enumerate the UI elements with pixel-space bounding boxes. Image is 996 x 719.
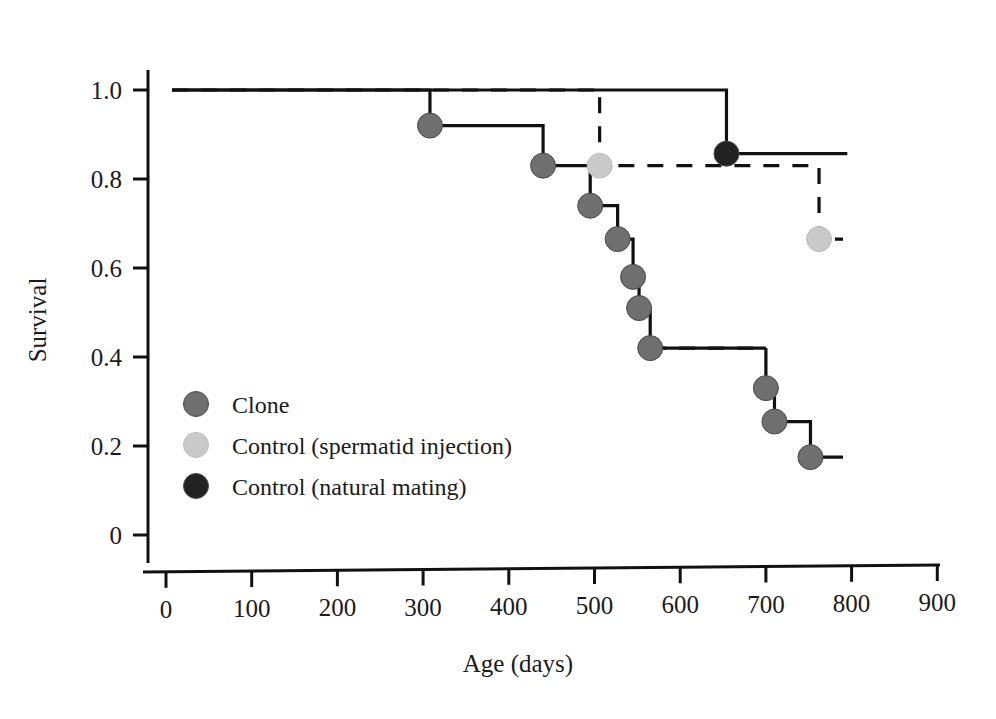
data-point-0	[621, 264, 646, 289]
data-point-0	[531, 153, 556, 178]
x-tick-label: 400	[490, 593, 528, 620]
series-line-0	[766, 348, 843, 457]
data-point-1	[807, 227, 832, 252]
data-point-0	[605, 227, 630, 252]
data-point-1	[587, 153, 612, 178]
legend-label-1: Control (spermatid injection)	[232, 433, 512, 459]
series-line-0	[172, 90, 766, 348]
data-point-0	[638, 336, 663, 361]
legend-swatch-2	[184, 474, 209, 499]
data-point-2	[714, 141, 739, 166]
x-tick-label: 200	[319, 594, 357, 621]
legend-label-2: Control (natural mating)	[232, 474, 467, 500]
x-tick-label: 500	[576, 592, 614, 619]
chart-figure: 00.20.40.60.81.0010020030040050060070080…	[0, 0, 996, 719]
y-tick-label: 0.8	[91, 166, 122, 193]
x-tick-label: 300	[404, 594, 442, 621]
x-tick-label: 100	[233, 595, 271, 622]
legend-label-0: Clone	[232, 392, 289, 418]
x-tick-label: 700	[747, 591, 785, 618]
x-axis	[143, 565, 940, 572]
x-tick-label: 800	[833, 590, 871, 617]
y-tick-label: 0.4	[91, 344, 123, 371]
data-point-0	[753, 376, 778, 401]
legend-swatch-1	[184, 433, 209, 458]
y-tick-label: 0.2	[91, 433, 122, 460]
data-point-0	[417, 113, 442, 138]
y-tick-label: 0.6	[91, 255, 122, 282]
survival-chart: 00.20.40.60.81.0010020030040050060070080…	[0, 0, 996, 719]
x-axis-label: Age (days)	[463, 650, 573, 678]
series-line-2	[172, 90, 847, 154]
data-point-0	[762, 409, 787, 434]
y-axis-label: Survival	[24, 278, 51, 363]
y-tick-label: 0	[110, 522, 123, 549]
legend-swatch-0	[184, 392, 209, 417]
x-tick-label: 900	[919, 589, 957, 616]
data-point-0	[798, 445, 823, 470]
data-point-0	[578, 193, 603, 218]
x-tick-label: 0	[160, 596, 173, 623]
data-point-0	[627, 296, 652, 321]
y-tick-label: 1.0	[91, 77, 122, 104]
series-line-1	[172, 90, 843, 239]
x-tick-label: 600	[661, 591, 699, 618]
